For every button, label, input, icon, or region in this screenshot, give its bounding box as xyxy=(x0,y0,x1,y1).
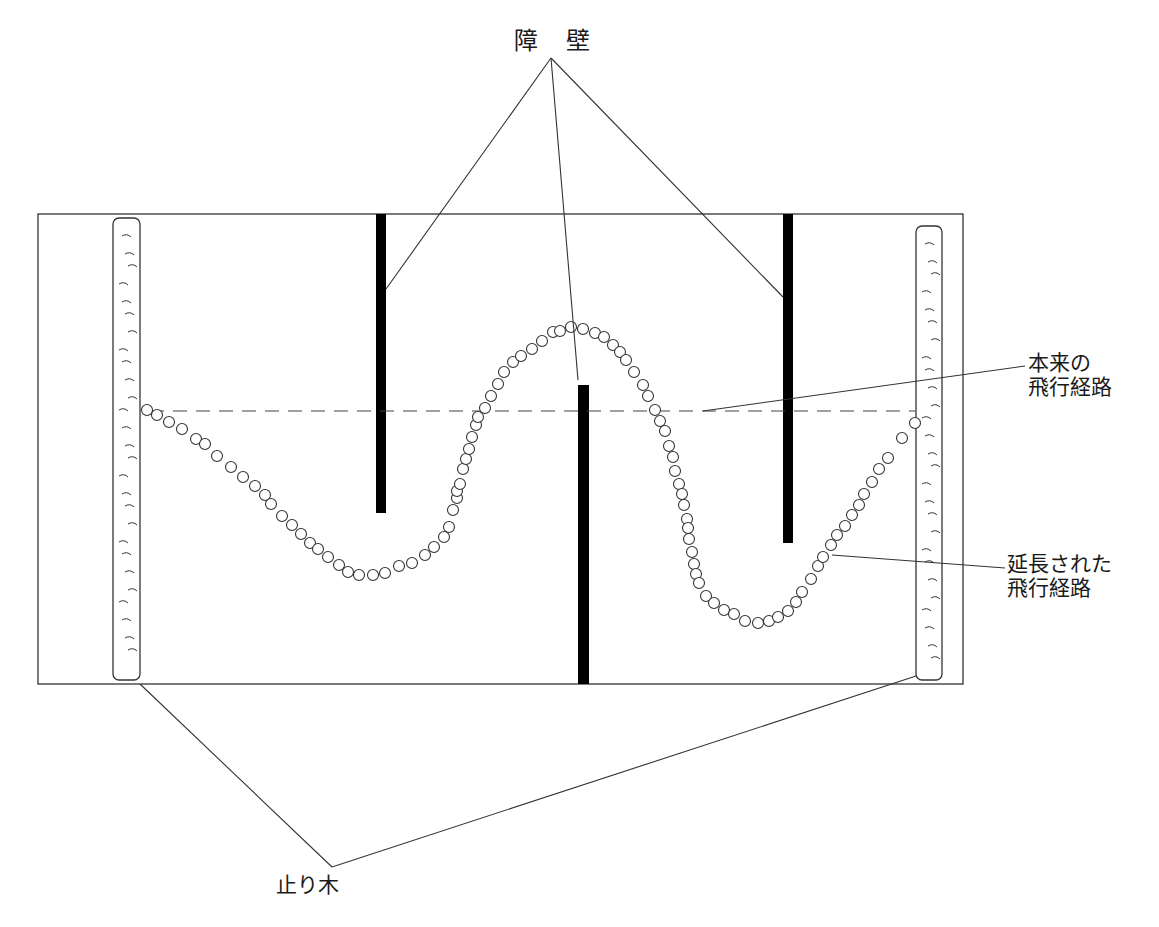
flight-path-point xyxy=(854,500,865,511)
flight-path-point xyxy=(818,552,829,563)
flight-path-point xyxy=(467,432,478,443)
perch-right xyxy=(916,226,942,680)
flight-path-point xyxy=(683,523,694,534)
flight-path-point xyxy=(455,479,466,490)
flight-path-point xyxy=(840,521,851,532)
barrier-leader-line xyxy=(386,58,551,289)
barrier-center xyxy=(578,385,589,684)
flight-path-point xyxy=(883,453,894,464)
flight-path-point xyxy=(394,561,405,572)
flight-path-point xyxy=(444,522,455,533)
flight-path-point xyxy=(177,424,188,435)
perch-leader-line xyxy=(332,676,916,867)
flight-path-point xyxy=(420,550,431,561)
flight-path-point xyxy=(555,326,566,337)
flight-path-point xyxy=(689,559,700,570)
flight-path-point xyxy=(152,410,163,421)
flight-path-point xyxy=(537,336,548,347)
flight-path-point xyxy=(250,481,261,492)
barrier-label: 障 壁 xyxy=(514,28,600,55)
flight-path-point xyxy=(826,540,837,551)
flight-path-point xyxy=(719,605,730,616)
flight-path-point xyxy=(493,379,504,390)
flight-path-point xyxy=(354,570,365,581)
flight-path-point xyxy=(832,530,843,541)
barrier-left xyxy=(376,214,386,513)
flight-path-point xyxy=(200,439,211,450)
flight-path-point xyxy=(684,534,695,545)
flight-path-point xyxy=(343,567,354,578)
barrier-leader-line xyxy=(551,58,783,297)
flight-path-point xyxy=(679,500,690,511)
flight-path-point xyxy=(729,609,740,620)
flight-path-point xyxy=(238,472,249,483)
flight-path-point xyxy=(643,391,654,402)
flight-path-point xyxy=(621,355,632,366)
flight-path-point xyxy=(226,462,237,473)
original-flight-path-label-line2: 飛行経路 xyxy=(1028,376,1112,400)
flight-path-point xyxy=(287,520,298,531)
flight-path-point xyxy=(212,451,223,462)
flight-path-point xyxy=(674,479,685,490)
flight-path-point xyxy=(439,532,450,543)
flight-path-point xyxy=(516,351,527,362)
flight-path-point xyxy=(277,511,288,522)
flight-path-point xyxy=(773,612,784,623)
flight-path-point xyxy=(859,489,870,500)
flight-path-point xyxy=(527,344,538,355)
flight-path-point xyxy=(677,489,688,500)
flight-path-point xyxy=(380,568,391,579)
flight-path-point xyxy=(910,418,921,429)
flight-path-point xyxy=(867,477,878,488)
extended-flight-path-label: 延長された 飛行経路 xyxy=(1007,553,1112,600)
flight-path-point xyxy=(694,578,705,589)
flight-path-point xyxy=(164,417,175,428)
flight-path-point xyxy=(566,322,577,333)
extended-flight-path xyxy=(142,322,921,629)
original-path-leader-line xyxy=(703,366,1025,411)
flight-path-point xyxy=(753,618,764,629)
barrier-right xyxy=(783,214,793,543)
extended-flight-path-label-line2: 飛行経路 xyxy=(1007,577,1112,601)
flight-path-point xyxy=(629,367,640,378)
flight-path-point xyxy=(142,405,153,416)
flight-path-point xyxy=(687,547,698,558)
flight-path-point xyxy=(650,405,661,416)
flight-path-point xyxy=(791,597,802,608)
flight-path-point xyxy=(709,598,720,609)
flight-path-point xyxy=(740,616,751,627)
flight-path-point xyxy=(847,510,858,521)
perch-left xyxy=(113,218,140,680)
original-flight-path-label-line1: 本来の xyxy=(1028,352,1112,376)
flight-path-point xyxy=(407,558,418,569)
perch-label: 止り木 xyxy=(276,874,339,898)
flight-path-point xyxy=(668,452,679,463)
original-flight-path-label: 本来の 飛行経路 xyxy=(1028,352,1112,399)
flight-path-point xyxy=(664,441,675,452)
flight-path-point xyxy=(486,391,497,402)
flight-path-point xyxy=(323,552,334,563)
flight-path-diagram xyxy=(0,0,1159,927)
flight-path-point xyxy=(313,544,324,555)
flight-path-point xyxy=(368,570,379,581)
flight-path-point xyxy=(874,464,885,475)
flight-path-point xyxy=(480,403,491,414)
flight-path-point xyxy=(783,606,794,617)
extended-flight-path-label-line1: 延長された xyxy=(1007,553,1112,577)
flight-path-point xyxy=(806,574,817,585)
flight-path-point xyxy=(429,542,440,553)
perch-leader-line xyxy=(140,684,332,867)
flight-path-point xyxy=(266,499,277,510)
flight-path-point xyxy=(670,466,681,477)
flight-path-point xyxy=(448,505,459,516)
flight-path-point xyxy=(499,367,510,378)
enclosure-box xyxy=(38,214,963,684)
flight-path-point xyxy=(660,426,671,437)
flight-path-point xyxy=(458,464,469,475)
flight-path-point xyxy=(638,380,649,391)
flight-path-point xyxy=(797,587,808,598)
flight-path-point xyxy=(461,454,472,465)
flight-path-point xyxy=(296,529,307,540)
flight-path-point xyxy=(578,324,589,335)
flight-path-point xyxy=(599,332,610,343)
